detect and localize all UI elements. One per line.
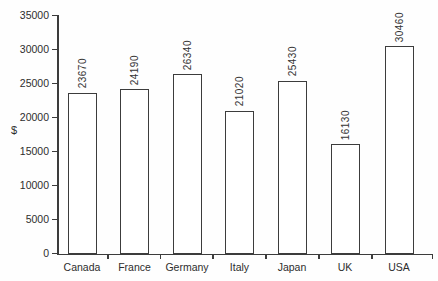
bar-value-label: 16130 — [340, 110, 351, 140]
x-category-label: USA — [373, 261, 425, 273]
bar — [120, 89, 149, 254]
y-tick-label: 0 — [0, 247, 49, 260]
x-tick — [432, 254, 434, 259]
bar-group-canada: 23670 Canada — [56, 58, 108, 253]
x-tick — [371, 254, 373, 259]
y-tick-label: 25000 — [0, 77, 49, 90]
x-tick — [107, 254, 109, 259]
x-category-label: UK — [319, 261, 371, 273]
bar-chart: $ 35000 30000 25000 20000 15000 10000 50… — [0, 0, 438, 281]
y-tick — [52, 15, 58, 17]
x-tick — [265, 254, 267, 259]
bar-value-label: 30460 — [394, 12, 405, 42]
bar — [278, 81, 307, 254]
x-tick — [160, 254, 162, 259]
x-tick — [318, 254, 320, 259]
y-tick-label: 35000 — [0, 9, 49, 22]
bar-group-japan: 25430 Japan — [266, 46, 318, 253]
bar-group-germany: 26340 Germany — [161, 40, 213, 253]
y-tick-label: 20000 — [0, 111, 49, 124]
bar-value-label: 26340 — [182, 40, 193, 70]
bar — [68, 93, 97, 254]
x-category-label: Canada — [56, 261, 108, 273]
y-tick — [52, 49, 58, 51]
bar-value-label: 21020 — [234, 76, 245, 106]
bar-value-label: 24190 — [129, 55, 140, 85]
bar — [331, 144, 360, 254]
y-tick-label: 10000 — [0, 179, 49, 192]
bar — [173, 74, 202, 253]
x-category-label: Germany — [161, 261, 213, 273]
x-axis-line — [57, 254, 433, 256]
bar-value-label: 25430 — [287, 46, 298, 76]
bar — [225, 111, 254, 254]
y-tick-label: 15000 — [0, 145, 49, 158]
x-category-label: France — [109, 261, 161, 273]
bar-group-italy: 21020 Italy — [214, 76, 266, 253]
bar-value-label: 23670 — [77, 58, 88, 88]
x-tick — [212, 254, 214, 259]
x-category-label: Japan — [266, 261, 318, 273]
y-tick-label: 5000 — [0, 213, 49, 226]
y-tick-label: 30000 — [0, 43, 49, 56]
bar — [385, 46, 414, 253]
bar-group-france: 24190 France — [109, 55, 161, 254]
x-category-label: Italy — [214, 261, 266, 273]
bar-group-uk: 16130 UK — [319, 110, 371, 254]
y-axis-title: $ — [11, 124, 17, 137]
bar-group-usa: 30460 USA — [373, 12, 425, 253]
